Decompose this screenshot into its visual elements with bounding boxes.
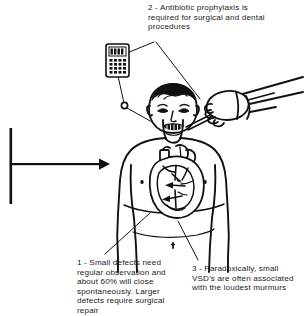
illustration-canvas: 2 - Antibiotic prophylaxis is required f… bbox=[0, 0, 308, 316]
annotation-caption-2: 2 - Antibiotic prophylaxis is required f… bbox=[148, 3, 268, 32]
annotation-caption-1: 1 - Small defects need regular observati… bbox=[77, 258, 181, 316]
handheld-device-icon bbox=[106, 44, 129, 77]
gloved-hand-with-instrument bbox=[186, 77, 303, 130]
left-leader-arrow bbox=[10, 128, 111, 204]
injection-site-marker bbox=[121, 102, 127, 108]
heart-with-vsd bbox=[150, 145, 204, 218]
annotation-caption-3: 3 - Paradoxically, small VSD's are often… bbox=[192, 264, 302, 293]
